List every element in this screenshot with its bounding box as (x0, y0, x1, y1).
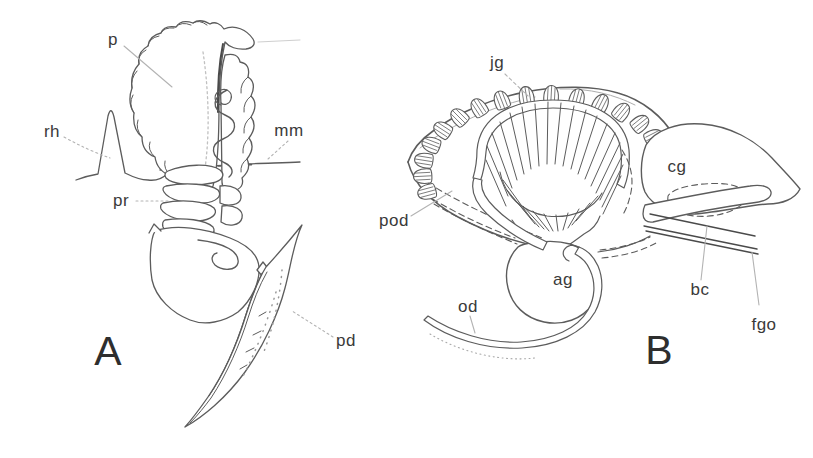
leader-fgo (752, 252, 759, 305)
fan-hook-faint-line (258, 40, 300, 42)
label-ag: ag (553, 270, 573, 290)
leader-mm (268, 141, 288, 159)
label-rh: rh (44, 122, 60, 142)
panel-a-letter: A (94, 328, 121, 375)
anatomical-figure: p rh mm pr pd A jg cg pod ag od bc fgo B (0, 0, 813, 458)
label-pr: pr (113, 191, 129, 211)
exit-duct-pair (644, 226, 758, 254)
bulb-sac (150, 227, 259, 322)
dashed-right-of-sac (600, 237, 656, 258)
inner-arc (500, 172, 602, 217)
label-mm: mm (274, 121, 303, 141)
leader-pd (292, 311, 333, 337)
leader-bc (701, 226, 707, 280)
label-bc: bc (691, 280, 710, 300)
leader-od (470, 316, 475, 333)
leader-jg (505, 74, 528, 96)
label-jg: jg (490, 53, 504, 73)
label-cg: cg (668, 157, 687, 177)
gill-rays-inner (503, 180, 598, 231)
twisted-column (221, 54, 255, 191)
label-p: p (108, 30, 118, 50)
label-pod: pod (379, 211, 409, 231)
exit-duct-upper (650, 214, 755, 236)
label-pd: pd (336, 331, 356, 351)
label-od: od (458, 297, 478, 317)
panel-b-letter: B (645, 327, 672, 374)
label-fgo: fgo (751, 315, 776, 335)
